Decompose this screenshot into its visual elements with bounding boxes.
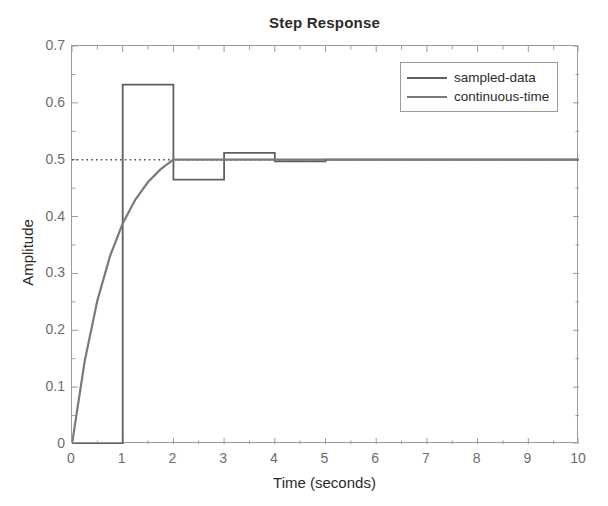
y-axis-title: Amplitude bbox=[19, 163, 36, 343]
y-tick-label: 0 bbox=[25, 435, 65, 451]
y-tick-label: 0.1 bbox=[25, 378, 65, 394]
x-tick-label: 1 bbox=[102, 450, 142, 466]
x-tick-label: 8 bbox=[457, 450, 497, 466]
y-tick-label: 0.6 bbox=[25, 94, 65, 110]
x-tick-label: 0 bbox=[51, 450, 91, 466]
legend-swatch-sampled-data bbox=[407, 77, 447, 79]
x-tick-label: 5 bbox=[305, 450, 345, 466]
x-tick-label: 10 bbox=[558, 450, 598, 466]
legend-label: continuous-time bbox=[454, 89, 549, 104]
series-line-continuous-time bbox=[72, 160, 579, 444]
x-tick-label: 9 bbox=[507, 450, 547, 466]
data-series-group bbox=[72, 85, 579, 444]
x-tick-label: 6 bbox=[355, 450, 395, 466]
page-title: Step Response bbox=[71, 14, 578, 31]
legend-label: sampled-data bbox=[454, 70, 536, 85]
legend-swatch-continuous-time bbox=[407, 96, 447, 98]
x-axis-title: Time (seconds) bbox=[71, 474, 578, 491]
figure-canvas: Step Response 00.10.20.30.40.50.60.7 012… bbox=[0, 0, 608, 506]
legend-item[interactable]: sampled-data bbox=[407, 68, 549, 87]
x-tick-label: 7 bbox=[406, 450, 446, 466]
y-tick-label: 0.7 bbox=[25, 37, 65, 53]
legend[interactable]: sampled-data continuous-time bbox=[400, 62, 558, 112]
x-tick-label: 4 bbox=[254, 450, 294, 466]
series-line-sampled-data bbox=[72, 85, 579, 444]
x-axis-tick-labels: 012345678910 bbox=[71, 450, 578, 472]
legend-item[interactable]: continuous-time bbox=[407, 87, 549, 106]
x-tick-label: 2 bbox=[152, 450, 192, 466]
x-tick-label: 3 bbox=[203, 450, 243, 466]
